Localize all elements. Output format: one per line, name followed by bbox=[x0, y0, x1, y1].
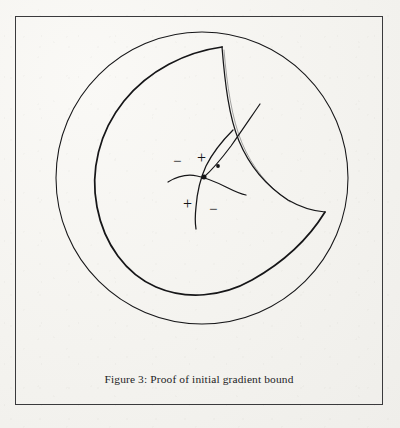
sign-upper-right: + bbox=[197, 150, 206, 166]
sign-upper-left: − bbox=[173, 154, 181, 169]
figure-frame-border bbox=[15, 16, 383, 405]
figure-caption: Figure 3: Proof of initial gradient boun… bbox=[15, 373, 383, 385]
sign-lower-left: + bbox=[183, 196, 192, 212]
sign-lower-right: − bbox=[209, 202, 217, 217]
figure-page: − + + − Figure 3: Proof of initial gradi… bbox=[0, 0, 400, 428]
